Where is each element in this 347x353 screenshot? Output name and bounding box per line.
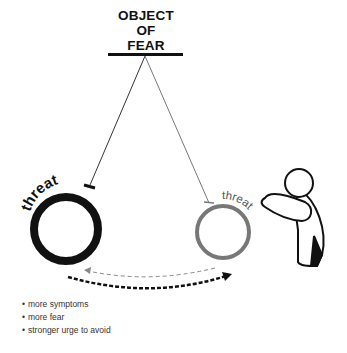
left-pendulum-string	[90, 56, 145, 185]
list-item: stronger urge to avoid	[22, 324, 111, 337]
pivot-bar	[108, 53, 183, 56]
return-arrow	[88, 268, 215, 277]
right-threat-ball	[197, 206, 249, 258]
right-threat-label: threat	[222, 189, 256, 212]
return-arrowhead	[84, 267, 91, 274]
consequences-list: more symptoms more fear stronger urge to…	[22, 298, 111, 337]
avoidance-arrowhead	[222, 272, 232, 281]
list-item: more symptoms	[22, 298, 111, 311]
left-threat-ball	[34, 197, 98, 261]
list-item: more fear	[22, 311, 111, 324]
avoidance-arrow	[68, 276, 226, 288]
right-pendulum-string	[145, 56, 209, 203]
left-attachment-tick	[84, 185, 95, 188]
right-attachment-tick	[204, 202, 214, 203]
person-figure-icon	[262, 169, 324, 266]
